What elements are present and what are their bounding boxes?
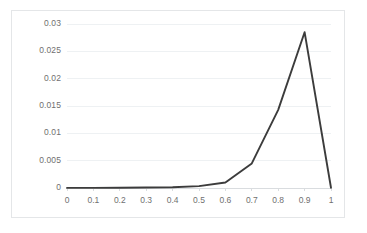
y-axis-tick-label: 0.015 (12, 100, 61, 110)
x-axis-tick-label: 0.7 (240, 195, 264, 205)
x-axis-tick-label: 0.4 (161, 195, 185, 205)
y-axis-tick-label: 0.005 (12, 155, 61, 165)
line-chart-plot (12, 11, 344, 217)
y-axis-tick-label: 0.01 (12, 127, 61, 137)
y-axis-tick-label: 0.03 (12, 18, 61, 28)
data-series-line (67, 32, 331, 188)
y-axis-tick-label: 0.025 (12, 45, 61, 55)
x-axis-tick-label: 0.9 (293, 195, 317, 205)
x-axis-tick-label: 0.2 (108, 195, 132, 205)
x-axis-tick-label: 0.8 (266, 195, 290, 205)
y-axis-tick-label: 0.02 (12, 73, 61, 83)
x-axis-tick-label: 0.5 (187, 195, 211, 205)
x-axis-tick-label: 0.1 (81, 195, 105, 205)
y-axis-tick-label: 0 (12, 182, 61, 192)
x-axis-tick-label: 0 (55, 195, 79, 205)
x-axis-tick-label: 0.6 (213, 195, 237, 205)
x-axis-tick-label: 1 (319, 195, 343, 205)
chart-container: 00.0050.010.0150.020.0250.0300.10.20.30.… (11, 10, 345, 218)
x-axis-tick-label: 0.3 (134, 195, 158, 205)
